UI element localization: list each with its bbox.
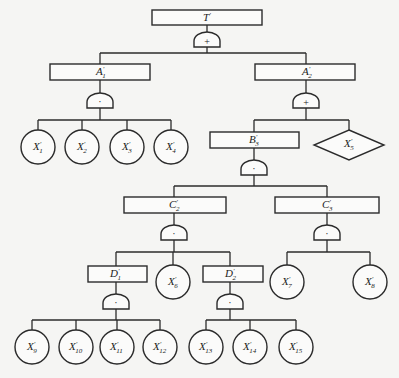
svg-text:·: · <box>114 297 117 308</box>
event-A2: A′2 <box>255 64 355 80</box>
and-gate-icon: · <box>161 225 187 240</box>
event-D2: D′2 <box>203 266 263 282</box>
fault-tree-svg: T′ A′1 A′2 B′3 C′2 C′3 D′1 D′2 + · + <box>0 0 399 378</box>
svg-text:·: · <box>325 228 328 239</box>
svg-text:+: + <box>303 97 309 108</box>
svg-text:+: + <box>204 36 210 47</box>
basic-event-X4: X′4 <box>154 130 188 164</box>
svg-text:·: · <box>98 96 101 107</box>
event-C3: C′3 <box>275 197 379 213</box>
and-gate-icon: · <box>314 225 340 240</box>
and-gate-icon: · <box>241 160 267 175</box>
basic-event-X13: X′13 <box>189 330 223 364</box>
svg-text:·: · <box>228 297 231 308</box>
event-T: T′ <box>152 10 262 25</box>
basic-event-X11: X′11 <box>100 330 134 364</box>
basic-event-X3: X′3 <box>110 130 144 164</box>
and-gate-icon: · <box>217 294 243 309</box>
and-gate-icon: · <box>103 294 129 309</box>
basic-event-X1: X′1 <box>21 130 55 164</box>
event-B3: B′3 <box>210 132 299 148</box>
event-A1: A′1 <box>50 64 150 80</box>
fault-tree-diagram: T′ A′1 A′2 B′3 C′2 C′3 D′1 D′2 + · + <box>0 0 399 378</box>
basic-event-X12: X′12 <box>143 330 177 364</box>
event-C2: C′2 <box>124 197 226 213</box>
basic-event-X6: X′6 <box>156 265 190 299</box>
basic-event-X10: X′10 <box>59 330 93 364</box>
or-gate-icon: + <box>293 93 319 108</box>
and-gate-icon: · <box>87 93 113 108</box>
or-gate-icon: + <box>194 32 220 47</box>
basic-event-X15: X′15 <box>279 330 313 364</box>
basic-event-X14: X′14 <box>233 330 267 364</box>
basic-event-X2: X′2 <box>65 130 99 164</box>
event-D1: D′1 <box>88 266 147 282</box>
basic-event-X8: X′8 <box>353 265 387 299</box>
svg-text:·: · <box>172 228 175 239</box>
basic-event-X7: X′7 <box>270 265 304 299</box>
svg-text:·: · <box>252 163 255 174</box>
undeveloped-event-X5: X′5 <box>314 130 384 160</box>
basic-event-X9: X′9 <box>15 330 49 364</box>
